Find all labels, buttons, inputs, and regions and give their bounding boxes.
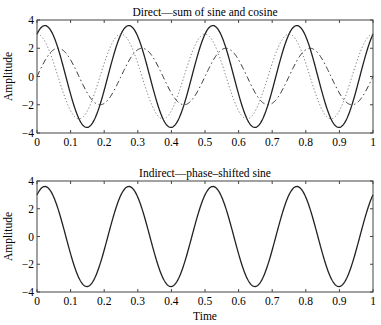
y-tick-label: −2	[22, 258, 34, 270]
y-axis-label: Amplitude	[2, 212, 15, 261]
x-tick-label: 0.7	[265, 136, 280, 148]
series-solid	[37, 186, 373, 286]
plot-2: 00.10.20.30.40.50.60.70.80.91−4−2024Indi…	[2, 167, 376, 322]
x-tick-label: 0.6	[231, 295, 246, 307]
x-tick-label: 1	[370, 136, 376, 148]
y-tick-label: 4	[28, 175, 34, 187]
x-tick-label: 0.2	[97, 136, 112, 148]
y-tick-label: 0	[28, 71, 34, 83]
y-tick-label: −2	[22, 99, 34, 111]
x-tick-label: 0.4	[164, 136, 179, 148]
x-axis-label: Time	[193, 310, 217, 322]
x-tick-label: 1	[370, 295, 376, 307]
axes-box	[37, 181, 373, 292]
y-tick-label: 2	[28, 42, 34, 54]
x-tick-label: 0.8	[299, 136, 314, 148]
series-solid	[37, 26, 373, 128]
x-tick-label: 0	[34, 295, 40, 307]
x-tick-label: 0	[34, 136, 40, 148]
x-tick-label: 0.4	[164, 295, 179, 307]
x-tick-label: 0.5	[198, 295, 213, 307]
x-tick-label: 0.1	[63, 295, 78, 307]
y-tick-label: −4	[22, 127, 34, 139]
y-tick-label: 0	[28, 231, 34, 243]
x-tick-label: 0.9	[332, 295, 347, 307]
x-tick-label: 0.9	[332, 136, 347, 148]
x-tick-label: 0.3	[131, 295, 146, 307]
y-tick-label: 4	[28, 14, 34, 26]
x-tick-label: 0.6	[231, 136, 246, 148]
series-dotted	[37, 34, 373, 119]
x-tick-label: 0.5	[198, 136, 213, 148]
y-tick-label: 2	[28, 203, 34, 215]
x-tick-label: 0.8	[299, 295, 314, 307]
plot-title: Direct—sum of sine and cosine	[133, 6, 278, 18]
x-tick-label: 0.1	[63, 136, 78, 148]
y-tick-label: −4	[22, 286, 34, 298]
plot-title: Indirect—phase–shifted sine	[139, 167, 271, 180]
axes-box	[37, 20, 373, 133]
plot-1: 00.10.20.30.40.50.60.70.80.91−4−2024Dire…	[2, 6, 376, 148]
x-tick-label: 0.3	[131, 136, 146, 148]
x-tick-label: 0.7	[265, 295, 280, 307]
y-axis-label: Amplitude	[2, 52, 15, 101]
figure: 00.10.20.30.40.50.60.70.80.91−4−2024Dire…	[0, 0, 381, 325]
x-tick-label: 0.2	[97, 295, 112, 307]
